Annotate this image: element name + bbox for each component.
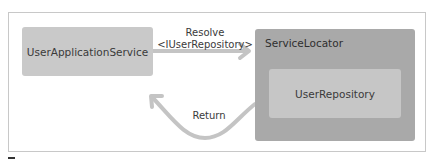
node-label: UserRepository xyxy=(295,88,375,100)
resolve-edge-label: Resolve <IUserRepository> xyxy=(155,27,255,51)
resolve-label-line2: <IUserRepository> xyxy=(155,39,255,51)
return-edge-label: Return xyxy=(189,110,229,122)
node-label: UserApplicationService xyxy=(27,46,148,58)
user-repository-node: UserRepository xyxy=(269,69,401,118)
node-label: ServiceLocator xyxy=(265,37,343,49)
resolve-label-line1: Resolve xyxy=(155,27,255,39)
caption-marker xyxy=(8,157,15,159)
service-locator-node: ServiceLocator UserRepository xyxy=(255,29,415,141)
user-application-service-node: UserApplicationService xyxy=(22,27,153,76)
